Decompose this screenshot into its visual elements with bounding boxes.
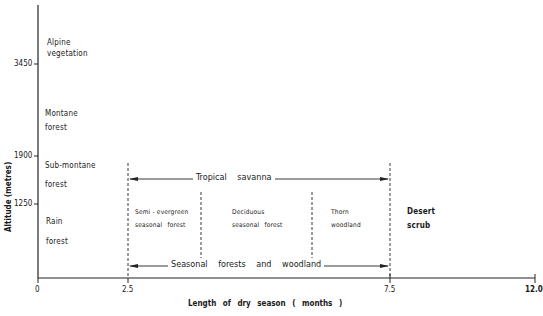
y-tick-1900: 1900 <box>14 151 32 160</box>
x-tick-0: 0 <box>35 285 40 294</box>
y-tick-1250: 1250 <box>14 199 32 208</box>
zone-rain-forest: Rain forest <box>46 215 68 249</box>
zone-deciduous-seasonal-forest: Deciduous seasonal forest <box>232 206 282 232</box>
y-tick-3450: 3450 <box>14 59 32 68</box>
zone-montane-forest: Montane forest <box>45 107 78 135</box>
y-axis-label: Altitude (metres) <box>4 162 13 232</box>
seasonal-forests-label: Seasonal forests and woodland <box>168 259 324 269</box>
zone-thorn-woodland: Thorn woodland <box>331 206 361 232</box>
x-tick-2-5: 2.5 <box>122 285 133 294</box>
x-tick-7-5: 7.5 <box>384 285 395 294</box>
x-axis-label: Length of dry season ( months ) <box>188 299 342 308</box>
zone-desert-scrub: Desert scrub <box>407 205 435 233</box>
zone-sub-montane-forest: Sub-montane forest <box>45 159 96 192</box>
zone-semi-evergreen-seasonal-forest: Semi - evergreen seasonal forest <box>135 206 188 232</box>
x-tick-12-0: 12.0 <box>525 285 543 294</box>
zone-alpine-vegetation: Alpine vegetation <box>47 37 88 59</box>
tropical-savanna-label: Tropical savanna <box>193 172 275 182</box>
